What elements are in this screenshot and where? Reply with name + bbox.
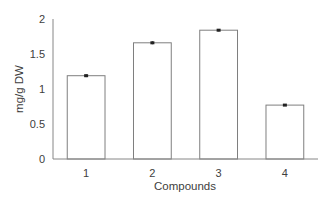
bar-4	[266, 104, 304, 159]
x-tick-label: 3	[216, 167, 222, 179]
bar-2	[133, 41, 171, 159]
y-tick-label: 1	[39, 83, 45, 95]
x-axis-labels: 1234	[83, 167, 288, 179]
y-tick-label: 2	[39, 13, 45, 25]
x-tick-label: 2	[149, 167, 155, 179]
bar-1	[67, 74, 105, 159]
bar-chart: 00.511.52 1234 Compounds mg/g DW	[0, 0, 334, 207]
error-bar-cap	[283, 104, 287, 107]
x-axis-title: Compounds	[154, 180, 216, 192]
y-tick-label: 0	[39, 153, 45, 165]
bar-3	[200, 29, 238, 159]
y-tick-label: 0.5	[30, 118, 45, 130]
bars	[67, 29, 304, 159]
y-tick-label: 1.5	[30, 48, 45, 60]
x-tick-label: 4	[282, 167, 288, 179]
error-bar-cap	[217, 29, 221, 32]
error-bar-cap	[150, 41, 154, 44]
error-bar-cap	[84, 74, 88, 77]
y-axis-ticks: 00.511.52	[30, 13, 45, 165]
y-axis-title: mg/g DW	[13, 65, 25, 113]
x-tick-label: 1	[83, 167, 89, 179]
